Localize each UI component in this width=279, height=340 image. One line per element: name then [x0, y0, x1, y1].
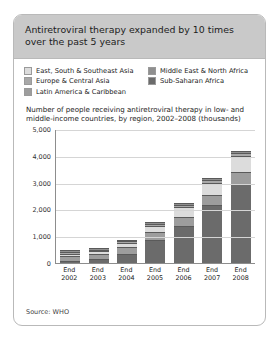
legend-item: Europe & Central Asia — [24, 77, 144, 85]
legend-item: Latin America & Caribbean — [24, 88, 144, 96]
legend-label: Sub-Saharan Africa — [160, 77, 224, 85]
legend-label: Europe & Central Asia — [36, 77, 109, 85]
y-axis-tick-label: 5,000 — [32, 126, 51, 134]
bar-segment — [145, 240, 165, 263]
x-axis-tick-label: End2006 — [171, 266, 197, 282]
gridline — [56, 184, 255, 185]
x-axis-tick-label: End2005 — [142, 266, 168, 282]
legend-item: East, South & Southeast Asia — [24, 67, 144, 75]
legend-label: East, South & Southeast Asia — [36, 67, 133, 75]
bar-column[interactable] — [60, 250, 80, 263]
x-axis-tick-label: End2008 — [228, 266, 254, 282]
legend-item: Middle East & North Africa — [148, 67, 255, 75]
gridline — [56, 130, 255, 131]
bar-column[interactable] — [202, 178, 222, 263]
bar-column[interactable] — [89, 248, 109, 263]
legend-swatch-icon — [148, 77, 156, 85]
legend-label: Latin America & Caribbean — [36, 88, 126, 96]
bar-segment — [174, 217, 194, 226]
x-axis-tick-label: End2007 — [199, 266, 225, 282]
x-axis: End2002End2003End2004End2005End2006End20… — [55, 266, 255, 282]
legend-label: Middle East & North Africa — [160, 67, 248, 75]
bar-segment — [231, 156, 251, 172]
bar-segment — [231, 172, 251, 183]
legend-item: Sub-Saharan Africa — [148, 77, 255, 85]
plot-canvas — [55, 130, 255, 264]
legend-swatch-icon — [24, 77, 32, 85]
bar-segment — [202, 195, 222, 205]
chart-subtitle: Number of people receiving antiretrovira… — [14, 102, 265, 129]
legend-swatch-icon — [148, 67, 156, 75]
bar-column[interactable] — [174, 203, 194, 263]
card-header: Antiretroviral therapy expanded by 10 ti… — [14, 15, 265, 59]
gridline — [56, 157, 255, 158]
bar-column[interactable] — [231, 151, 251, 263]
bar-segment — [231, 184, 251, 263]
y-axis-tick-label: 3,000 — [32, 180, 51, 188]
bar-column[interactable] — [145, 222, 165, 263]
x-axis-tick-label: End2002 — [56, 266, 82, 282]
bar-segment — [117, 254, 137, 263]
gridline — [56, 237, 255, 238]
x-axis-tick-label: End2003 — [85, 266, 111, 282]
source-note: Source: WHO — [26, 308, 69, 316]
bar-group — [56, 130, 255, 263]
gridline — [56, 210, 255, 211]
bar-column[interactable] — [117, 240, 137, 263]
bar-segment — [89, 259, 109, 263]
chart-plot-area: 01,0002,0003,0004,0005,000 End2002End200… — [24, 130, 255, 280]
y-axis-tick-label: 2,000 — [32, 206, 51, 214]
y-axis-tick-label: 0 — [47, 260, 51, 268]
y-axis-tick-label: 4,000 — [32, 153, 51, 161]
chart-card: Antiretroviral therapy expanded by 10 ti… — [13, 14, 266, 326]
chart-legend: East, South & Southeast Asia Middle East… — [14, 59, 265, 102]
y-axis: 01,0002,0003,0004,0005,000 — [24, 130, 54, 264]
bar-segment — [202, 205, 222, 263]
bar-segment — [174, 226, 194, 263]
x-axis-tick-label: End2004 — [113, 266, 139, 282]
legend-swatch-icon — [24, 88, 32, 96]
legend-swatch-icon — [24, 67, 32, 75]
bar-segment — [174, 207, 194, 217]
page-title: Antiretroviral therapy expanded by 10 ti… — [25, 24, 254, 49]
y-axis-tick-label: 1,000 — [32, 233, 51, 241]
bar-segment — [60, 261, 80, 263]
